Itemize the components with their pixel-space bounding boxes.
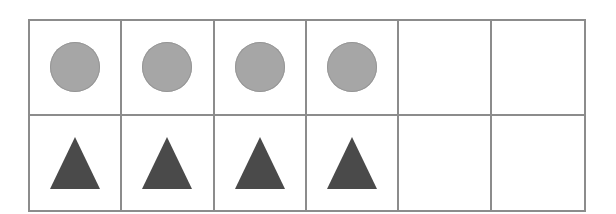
ten-frame-grid (28, 19, 586, 212)
triangle-icon (327, 137, 377, 189)
empty-cell (399, 21, 491, 116)
grid-cell (215, 116, 307, 211)
triangle-icon (142, 137, 192, 189)
grid-cell (122, 21, 214, 116)
triangle-icon (235, 137, 285, 189)
grid-cell (307, 116, 399, 211)
circle-icon (142, 42, 192, 92)
circle-icon (327, 42, 377, 92)
circle-icon (235, 42, 285, 92)
grid-cell (215, 21, 307, 116)
triangle-icon (50, 137, 100, 189)
circle-icon (50, 42, 100, 92)
empty-cell (492, 21, 584, 116)
grid-cell (30, 21, 122, 116)
grid-cell (307, 21, 399, 116)
empty-cell (492, 116, 584, 211)
grid-cell (122, 116, 214, 211)
grid-cell (30, 116, 122, 211)
empty-cell (399, 116, 491, 211)
